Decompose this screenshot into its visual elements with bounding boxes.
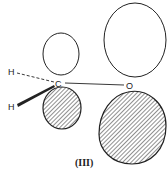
carbon-lower-lobe [43,87,81,129]
hydrogen-bottom-label: H [8,102,15,112]
c-o-bond [65,83,124,85]
carbon-label: C [55,79,62,89]
hydrogen-top-label: H [8,67,15,77]
carbon-upper-lobe [43,33,79,75]
c-h-dashed-bond [17,73,54,82]
orbital-diagram: C O H H (III) [0,0,167,181]
oxygen-lower-lobe [99,91,166,164]
figure-caption: (III) [75,157,93,169]
oxygen-label: O [126,81,133,91]
oxygen-upper-lobe [104,3,166,77]
